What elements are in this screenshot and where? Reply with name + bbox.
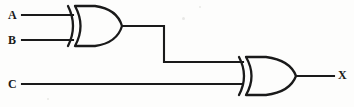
scan-speck xyxy=(47,98,49,100)
scan-speck xyxy=(199,6,201,8)
input-label-b: B xyxy=(8,34,16,46)
gate2-xor-body xyxy=(246,57,296,95)
scan-speck xyxy=(182,17,185,20)
circuit-schematic-svg xyxy=(0,0,354,107)
input-label-a: A xyxy=(8,9,17,21)
circuit-diagram: A B C X xyxy=(0,0,354,107)
gate1-xor-body xyxy=(75,6,122,46)
output-label-x: X xyxy=(338,69,347,81)
input-label-c: C xyxy=(8,78,17,90)
wire-net1-gate1-to-gate2 xyxy=(122,26,243,62)
